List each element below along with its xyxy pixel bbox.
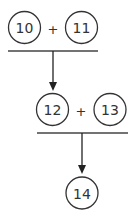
node-10: 10 — [9, 12, 41, 44]
node-14: 14 — [66, 177, 98, 209]
node-10-label: 10 — [16, 20, 34, 36]
node-11: 11 — [66, 12, 98, 44]
arrow-down-icon-1 — [49, 51, 57, 91]
plus-operator-1: + — [48, 22, 59, 37]
node-11-label: 11 — [73, 20, 91, 36]
node-13: 13 — [94, 94, 126, 126]
node-12: 12 — [37, 94, 69, 126]
arrow-down-icon-2 — [78, 133, 86, 174]
plus-operator-2: + — [76, 104, 87, 119]
node-14-label: 14 — [73, 186, 91, 202]
node-12-label: 12 — [44, 102, 62, 118]
node-13-label: 13 — [101, 102, 119, 118]
addition-flow-diagram: 10 + 11 12 + 13 14 — [0, 0, 136, 221]
